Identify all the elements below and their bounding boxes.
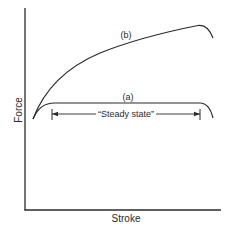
- steady-state-right-arrowhead: [194, 112, 200, 116]
- steady-state-label: “Steady state”: [96, 110, 156, 119]
- curve-a-label: (a): [123, 93, 134, 102]
- y-axis-label: Force: [14, 97, 24, 123]
- steady-state-left-arrowhead: [52, 112, 58, 116]
- curve-b-label: (b): [121, 31, 132, 40]
- x-axis-label: Stroke: [112, 214, 141, 224]
